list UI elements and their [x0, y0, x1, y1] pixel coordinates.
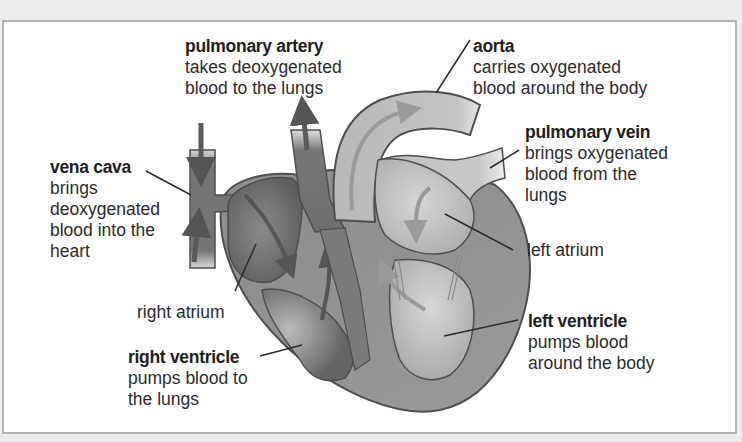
left-ventricle-title: left ventricle [528, 311, 655, 332]
right-ventricle-description: pumps blood to the lungs [128, 368, 248, 410]
pulmonary-artery-description: takes deoxygenated blood to the lungs [185, 57, 342, 99]
right-ventricle-label: right ventricle pumps blood to the lungs [128, 347, 248, 410]
pulmonary-vein-description: brings oxygenated blood from the lungs [525, 143, 668, 206]
left-ventricle-description: pumps blood around the body [528, 332, 655, 374]
left-ventricle-chamber [390, 260, 474, 380]
left-atrium-label: left atrium [527, 240, 604, 261]
aorta-description: carries oxygenated blood around the body [473, 57, 647, 99]
left-ventricle-label: left ventricle pumps blood around the bo… [528, 311, 655, 374]
left-atrium-description: left atrium [527, 240, 604, 261]
aorta-title: aorta [473, 36, 647, 57]
pulmonary-artery-title: pulmonary artery [185, 36, 342, 57]
aorta-label: aorta carries oxygenated blood around th… [473, 36, 647, 99]
right-ventricle-title: right ventricle [128, 347, 248, 368]
vena-cava-label: vena cava brings deoxygenated blood into… [50, 157, 160, 262]
right-atrium-label: right atrium [137, 302, 225, 323]
vena-cava-title: vena cava [50, 157, 160, 178]
pulmonary-vein-label: pulmonary vein brings oxygenated blood f… [525, 122, 668, 206]
vena-cava-description: brings deoxygenated blood into the heart [50, 178, 160, 262]
aorta-leader-line [436, 40, 470, 93]
right-atrium-description: right atrium [137, 302, 225, 323]
pulmonary-artery-label: pulmonary artery takes deoxygenated bloo… [185, 36, 342, 99]
pulmonary-vein-title: pulmonary vein [525, 122, 668, 143]
